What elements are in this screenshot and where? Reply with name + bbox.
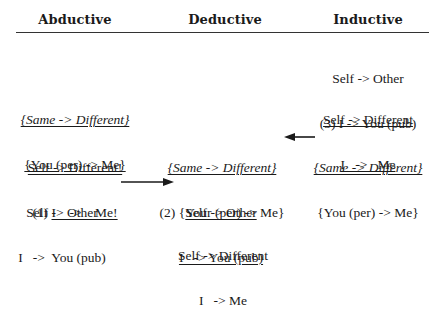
arrow-right-abductive-to-deductive	[121, 176, 175, 188]
deductive-block-1-line-1: {Same -> Different}	[168, 160, 277, 175]
abductive-block-2-line-1: Self -> Different!	[28, 160, 122, 175]
arrow-left-inductive-to-deductive	[284, 131, 316, 143]
deductive-block-3-line-2: I -> Me	[178, 293, 268, 308]
deductive-block-3: Self -> Different I -> Me	[178, 218, 268, 309]
inductive-block-3-line-1: {Same -> Different}	[314, 160, 423, 175]
abductive-block-1-line-1: {Same -> Different}	[21, 112, 130, 127]
abductive-block-3-line-2: I -> You (pub)	[18, 250, 106, 265]
header-abductive: Abductive	[15, 12, 135, 27]
header-deductive: Deductive	[165, 12, 285, 27]
abductive-block-3: Self -> Other I -> You (pub)	[18, 175, 106, 280]
header-inductive: Inductive	[308, 12, 428, 27]
inductive-block-3: {Same -> Different} {You (per) -> Me}	[314, 130, 423, 235]
inductive-block-3-line-2: {You (per) -> Me}	[314, 205, 423, 220]
abductive-block-3-line-1: Self -> Other	[18, 205, 106, 220]
inductive-block-2-line-1: Self -> Different	[323, 112, 413, 127]
deductive-block-3-line-1: Self -> Different	[178, 248, 268, 263]
header-rule	[16, 32, 429, 33]
